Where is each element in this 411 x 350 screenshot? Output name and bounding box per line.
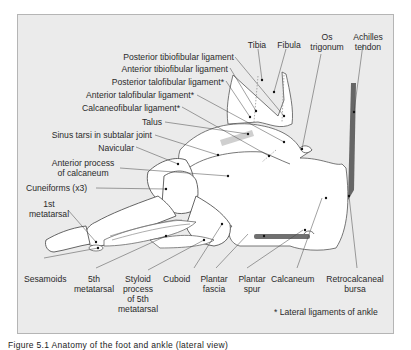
label-fibula: Fibula	[273, 40, 305, 50]
label-achilles-tendon: Achilles tendon	[348, 32, 388, 52]
label-styloid-process: Styloid process of 5th metatarsal	[116, 274, 160, 314]
label-posterior-tibiofibular: Posterior tibiofibular ligament	[80, 52, 234, 62]
label-tibia: Tibia	[240, 40, 274, 50]
label-retrocalcaneal-bursa: Retrocalcaneal bursa	[322, 274, 388, 294]
label-talus: Talus	[120, 117, 162, 127]
label-anterior-process: Anterior process of calcaneum	[46, 158, 120, 178]
plantar-fascia-band	[254, 234, 310, 239]
label-fifth-metatarsal: 5th metatarsal	[72, 274, 116, 294]
label-cuboid: Cuboid	[163, 274, 190, 284]
label-sinus-tarsi: Sinus tarsi in subtalar joint	[30, 130, 152, 140]
label-cuneiforms: Cuneiforms (x3)	[26, 183, 87, 193]
label-plantar-spur: Plantar spur	[234, 274, 270, 294]
achilles-tendon	[348, 83, 356, 200]
label-plantar-fascia: Plantar fascia	[196, 274, 232, 294]
label-navicular: Navicular	[80, 143, 134, 153]
label-posterior-talofibular: Posterior talofibular ligament*	[60, 77, 224, 87]
label-sesamoids: Sesamoids	[24, 274, 67, 284]
label-os-trigonum: Os trigonum	[306, 32, 348, 52]
label-calcaneofibular: Calcaneofibular ligament*	[40, 103, 180, 113]
footnote-lateral-ligaments: * Lateral ligaments of ankle	[274, 307, 378, 317]
label-anterior-tibiofibular: Anterior tibiofibular ligament	[70, 64, 228, 74]
figure-caption: Figure 5.1 Anatomy of the foot and ankle…	[8, 340, 228, 350]
label-first-metatarsal: 1st metatarsal	[26, 199, 72, 219]
label-anterior-talofibular: Anterior talofibular ligament*	[50, 90, 194, 100]
label-calcaneum: Calcaneum	[271, 274, 314, 284]
